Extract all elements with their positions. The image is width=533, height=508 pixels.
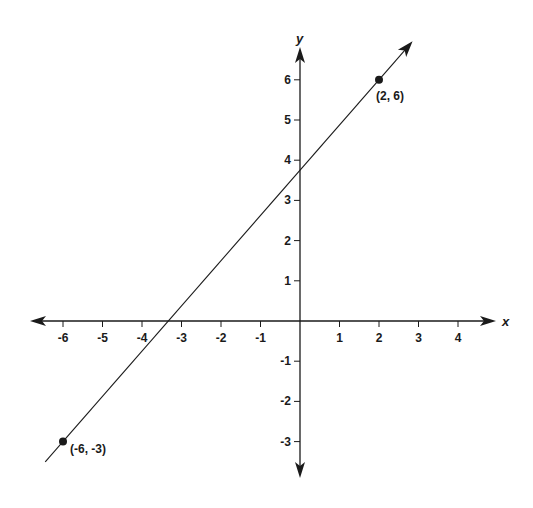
points: (-6, -3)(2, 6) xyxy=(59,76,404,456)
point-label: (-6, -3) xyxy=(70,442,106,456)
y-tick-label: -1 xyxy=(280,354,291,368)
y-axis-label: y xyxy=(295,31,304,46)
y-tick-label: 5 xyxy=(284,113,291,127)
series xyxy=(45,41,412,462)
x-tick-label: -6 xyxy=(58,331,69,345)
data-point xyxy=(59,438,67,446)
x-axis-label: x xyxy=(501,314,510,329)
y-tick-label: 4 xyxy=(284,153,291,167)
axes xyxy=(30,47,496,478)
x-tick-label: 3 xyxy=(415,331,422,345)
y-tick-label: 3 xyxy=(284,193,291,207)
ticks: -6-5-4-3-2-11234-3-2-1123456 xyxy=(58,73,462,449)
y-tick-label: -3 xyxy=(280,435,291,449)
x-tick-label: 2 xyxy=(376,331,383,345)
x-tick-label: -2 xyxy=(216,331,227,345)
x-tick-label: 4 xyxy=(455,331,462,345)
line-arrow-icon xyxy=(398,41,413,57)
x-tick-label: -5 xyxy=(97,331,108,345)
data-point xyxy=(375,76,383,84)
x-tick-label: -4 xyxy=(137,331,148,345)
x-tick-label: -3 xyxy=(176,331,187,345)
y-tick-label: 2 xyxy=(284,234,291,248)
x-tick-label: -1 xyxy=(255,331,266,345)
point-label: (2, 6) xyxy=(376,89,404,103)
y-tick-label: -2 xyxy=(280,394,291,408)
coordinate-plane: -6-5-4-3-2-11234-3-2-1123456 (-6, -3)(2,… xyxy=(0,0,533,508)
x-tick-label: 1 xyxy=(336,331,343,345)
y-tick-label: 1 xyxy=(284,274,291,288)
data-line xyxy=(45,46,408,462)
y-tick-label: 6 xyxy=(284,73,291,87)
